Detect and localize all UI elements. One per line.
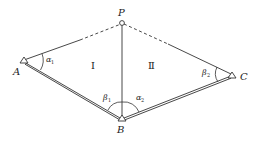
svg-text:1: 1 [108, 97, 111, 103]
point-p-label: P [117, 7, 125, 18]
angle-label-alpha1: α 1 [46, 55, 54, 65]
point-a-label: A [12, 66, 20, 77]
angle-label-beta1: β 1 [102, 93, 111, 103]
point-b-label: B [116, 124, 124, 135]
edge-a-p-solid [24, 40, 80, 60]
intersection-diagram: P A B C Ⅰ Ⅱ α 1 β 1 α 2 β 2 [0, 0, 253, 142]
edge-p-c-dashed [124, 24, 168, 44]
angle-arc-alpha1 [41, 54, 44, 70]
angle-arc-beta2 [215, 67, 218, 82]
point-a-marker [20, 57, 28, 63]
svg-text:1: 1 [51, 59, 54, 65]
region-ii-label: Ⅱ [148, 60, 155, 71]
svg-text:2: 2 [141, 97, 144, 103]
angle-label-alpha2: α 2 [136, 93, 144, 103]
edge-p-c-solid [168, 44, 231, 74]
edge-a-b-double [24, 62, 120, 120]
svg-text:2: 2 [207, 72, 210, 78]
region-i-label: Ⅰ [91, 60, 95, 71]
angle-arc-alpha2 [122, 102, 139, 112]
point-p-marker [120, 21, 125, 26]
angle-label-beta2: β 2 [201, 68, 210, 78]
edge-a-p-dashed [80, 24, 121, 40]
angle-arc-beta1 [108, 102, 122, 110]
point-c-label: C [240, 71, 248, 82]
